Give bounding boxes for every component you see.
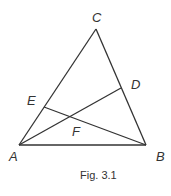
segment-ca bbox=[19, 29, 96, 145]
label-f: F bbox=[72, 124, 81, 139]
label-e: E bbox=[27, 93, 36, 108]
segment-be bbox=[44, 107, 146, 145]
label-d: D bbox=[131, 77, 140, 92]
label-b: B bbox=[156, 149, 165, 164]
triangle-diagram: C D E F A B Fig. 3.1 bbox=[0, 0, 171, 196]
label-c: C bbox=[92, 10, 102, 25]
figure-caption: Fig. 3.1 bbox=[80, 169, 117, 181]
label-a: A bbox=[8, 149, 18, 164]
